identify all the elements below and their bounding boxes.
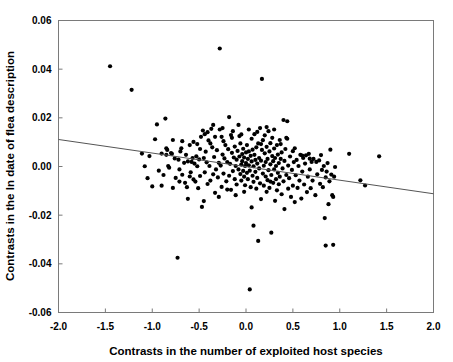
- data-point: [272, 146, 276, 150]
- data-point: [233, 144, 237, 148]
- data-point: [143, 164, 147, 168]
- y-tick-label: 0.06: [32, 15, 52, 26]
- data-point: [310, 179, 314, 183]
- x-tick-label: 0.0: [239, 321, 253, 332]
- data-point: [185, 185, 189, 189]
- data-point: [266, 129, 270, 133]
- data-point: [220, 185, 224, 189]
- data-point: [273, 199, 277, 203]
- data-point: [215, 148, 219, 152]
- data-point: [150, 184, 154, 188]
- data-point: [210, 145, 214, 149]
- data-point: [238, 141, 242, 145]
- data-point: [108, 64, 112, 68]
- data-point: [275, 188, 279, 192]
- data-point: [160, 184, 164, 188]
- data-point: [284, 173, 288, 177]
- data-point: [231, 129, 235, 133]
- x-tick-label: 0.5: [286, 321, 300, 332]
- data-point: [259, 197, 263, 201]
- data-point: [199, 135, 203, 139]
- data-point: [277, 182, 281, 186]
- data-point: [211, 172, 215, 176]
- data-point: [191, 140, 195, 144]
- data-point: [308, 157, 312, 161]
- data-point: [256, 239, 260, 243]
- data-point: [250, 148, 254, 152]
- data-point: [229, 188, 233, 192]
- data-point: [248, 287, 252, 291]
- data-point: [270, 136, 274, 140]
- data-point: [308, 167, 312, 171]
- data-point: [224, 179, 228, 183]
- data-point: [309, 186, 313, 190]
- data-point: [171, 138, 175, 142]
- data-point: [225, 188, 229, 192]
- data-point: [322, 164, 326, 168]
- data-point: [188, 143, 192, 147]
- data-point: [248, 169, 252, 173]
- data-point: [260, 77, 264, 81]
- data-point: [253, 170, 257, 174]
- data-point: [204, 150, 208, 154]
- scatter-plot-figure: -2.0-1.5-1.0-0.50.00.51.01.52.0 -0.06-0.…: [0, 0, 453, 362]
- data-point: [198, 174, 202, 178]
- data-point: [333, 165, 337, 169]
- data-point: [285, 137, 289, 141]
- data-point: [231, 169, 235, 173]
- data-point: [207, 164, 211, 168]
- data-point: [263, 133, 267, 137]
- data-point: [219, 163, 223, 167]
- y-axis-title: Contrasts in the ln date of flea descrip…: [4, 51, 16, 281]
- data-point: [254, 187, 258, 191]
- data-point: [287, 176, 291, 180]
- data-point: [157, 169, 161, 173]
- data-point: [242, 175, 246, 179]
- data-point: [293, 200, 297, 204]
- data-point: [202, 156, 206, 160]
- data-point: [307, 152, 311, 156]
- data-point: [303, 161, 307, 165]
- data-point: [279, 157, 283, 161]
- x-axis-title: Contrasts in the number of exploited hos…: [109, 345, 383, 357]
- data-point: [283, 147, 287, 151]
- data-point: [268, 179, 272, 183]
- data-point: [216, 175, 220, 179]
- data-point: [221, 139, 225, 143]
- x-tick-label: -2.0: [50, 321, 68, 332]
- data-point: [277, 161, 281, 165]
- data-point: [268, 141, 272, 145]
- data-point: [296, 164, 300, 168]
- data-point: [211, 123, 215, 127]
- data-point: [251, 224, 255, 228]
- x-tick-label: -1.0: [144, 321, 162, 332]
- data-point: [260, 148, 264, 152]
- data-point: [254, 145, 258, 149]
- data-point: [242, 190, 246, 194]
- data-point: [267, 149, 271, 153]
- data-point: [247, 149, 251, 153]
- data-point: [255, 130, 259, 134]
- data-point: [319, 153, 323, 157]
- data-point: [313, 193, 317, 197]
- data-point: [255, 176, 259, 180]
- data-point: [314, 160, 318, 164]
- data-point: [295, 186, 299, 190]
- data-point: [234, 193, 238, 197]
- data-point: [203, 170, 207, 174]
- data-point: [255, 161, 259, 165]
- data-point: [184, 153, 188, 157]
- data-point: [286, 163, 290, 167]
- y-tick-label: 0.00: [32, 161, 52, 172]
- data-point: [229, 133, 233, 137]
- data-point: [222, 156, 226, 160]
- data-point: [145, 176, 149, 180]
- data-point: [186, 197, 190, 201]
- data-point: [285, 119, 289, 123]
- data-point: [280, 166, 284, 170]
- x-tick-label: -1.5: [97, 321, 115, 332]
- data-point: [261, 138, 265, 142]
- data-point: [223, 143, 227, 147]
- y-tick-label: 0.04: [32, 64, 52, 75]
- data-point: [153, 137, 157, 141]
